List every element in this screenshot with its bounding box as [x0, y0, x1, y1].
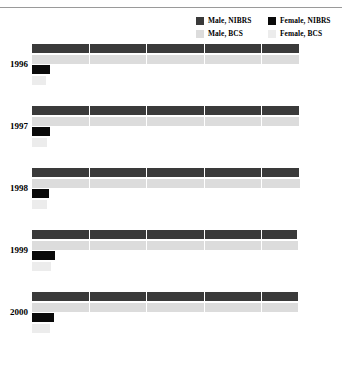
bar-2000-male-bcs [32, 303, 298, 312]
bar-2000-female-nibrs [32, 313, 54, 322]
bar-group-1999: 1999 [0, 230, 342, 272]
year-label-2000: 2000 [0, 307, 28, 317]
bars-2000 [32, 292, 318, 334]
bar-2000-male-nibrs [32, 292, 298, 301]
bar-1998-male-bcs [32, 179, 300, 188]
chart-legend: Male, NIBRS Female, NIBRS Male, BCS Fema… [196, 15, 342, 39]
year-label-1999: 1999 [0, 245, 28, 255]
top-divider-rule [0, 7, 342, 8]
bar-1999-female-nibrs [32, 251, 55, 260]
bar-2000-female-bcs [32, 324, 50, 333]
bar-group-1997: 1997 [0, 106, 342, 148]
bar-group-1996: 1996 [0, 44, 342, 86]
bars-1996 [32, 44, 318, 86]
bar-1997-female-nibrs [32, 127, 50, 136]
year-label-1996: 1996 [0, 59, 28, 69]
bar-1997-female-bcs [32, 138, 47, 147]
legend-swatch-female-bcs [268, 30, 276, 38]
year-label-1998: 1998 [0, 183, 28, 193]
legend-row-bcs: Male, BCS Female, BCS [196, 28, 342, 39]
legend-row-nibrs: Male, NIBRS Female, NIBRS [196, 15, 342, 26]
legend-item-female-nibrs: Female, NIBRS [268, 16, 342, 25]
legend-label-male-bcs: Male, BCS [208, 29, 243, 38]
legend-swatch-female-nibrs [268, 17, 276, 25]
bar-1999-male-nibrs [32, 230, 297, 239]
bars-1997 [32, 106, 318, 148]
bar-1999-male-bcs [32, 241, 298, 250]
bar-1998-male-nibrs [32, 168, 299, 177]
bar-1996-male-bcs [32, 55, 299, 64]
bar-1997-male-nibrs [32, 106, 299, 115]
legend-item-male-bcs: Male, BCS [196, 29, 268, 38]
chart-plot-area: 19961997199819992000 020406080100 [0, 40, 342, 392]
bar-1998-female-nibrs [32, 189, 49, 198]
legend-item-female-bcs: Female, BCS [268, 29, 342, 38]
legend-swatch-male-bcs [196, 30, 204, 38]
legend-label-female-bcs: Female, BCS [280, 29, 322, 38]
bar-1998-female-bcs [32, 200, 47, 209]
legend-label-male-nibrs: Male, NIBRS [208, 16, 251, 25]
bar-1996-male-nibrs [32, 44, 299, 53]
bar-1999-female-bcs [32, 262, 51, 271]
bar-1996-female-bcs [32, 76, 46, 85]
legend-label-female-nibrs: Female, NIBRS [280, 16, 331, 25]
bar-group-1998: 1998 [0, 168, 342, 210]
bar-1996-female-nibrs [32, 65, 50, 74]
bar-1997-male-bcs [32, 117, 299, 126]
legend-swatch-male-nibrs [196, 17, 204, 25]
year-label-1997: 1997 [0, 121, 28, 131]
legend-item-male-nibrs: Male, NIBRS [196, 16, 268, 25]
bars-1998 [32, 168, 318, 210]
bars-1999 [32, 230, 318, 272]
bar-group-2000: 2000 [0, 292, 342, 334]
